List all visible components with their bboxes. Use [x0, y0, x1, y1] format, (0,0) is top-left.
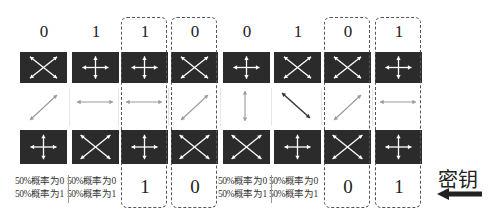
probability-line-0: 50%概率为0	[218, 175, 268, 188]
probability-note: 50%概率为050%概率为1	[67, 175, 117, 201]
column-divider	[69, 88, 70, 126]
sender-basis-rectilinear-icon	[72, 52, 119, 83]
probability-line-1: 50%概率为1	[269, 188, 319, 201]
sender-basis-rectilinear-icon	[223, 52, 270, 83]
column-divider	[168, 88, 169, 126]
sender-basis-diagonal-icon	[20, 52, 67, 83]
receiver-basis-diagonal-icon	[223, 130, 270, 164]
column-divider	[372, 88, 373, 126]
column-divider	[220, 88, 221, 126]
probability-line-1: 50%概率为1	[67, 188, 117, 201]
probability-note: 50%概率为050%概率为1	[218, 175, 268, 201]
sender-basis-diagonal-icon	[274, 52, 321, 83]
kept-column-outline	[171, 17, 217, 208]
probability-divider	[68, 175, 69, 203]
photon-diag-45-icon	[20, 88, 68, 126]
column-divider	[271, 88, 272, 126]
sent-bit: 0	[20, 22, 68, 42]
sent-bit: 0	[223, 22, 271, 42]
receiver-basis-rectilinear-icon	[274, 130, 321, 164]
sent-bit: 1	[72, 22, 120, 42]
probability-divider	[271, 175, 272, 203]
photon-diag-135-icon	[274, 88, 322, 126]
receiver-basis-rectilinear-icon	[20, 130, 67, 164]
kept-column-outline	[324, 17, 370, 208]
kept-column-outline	[121, 17, 167, 208]
left-arrow-icon	[437, 188, 482, 200]
probability-note: 50%概率为050%概率为1	[15, 175, 65, 201]
sent-bit: 1	[274, 22, 322, 42]
column-divider	[321, 88, 322, 126]
column-divider	[118, 88, 119, 126]
kept-column-outline	[375, 17, 421, 208]
probability-line-1: 50%概率为1	[218, 188, 268, 201]
probability-note: 50%概率为050%概率为1	[269, 175, 319, 201]
photon-vertical-icon	[223, 88, 271, 126]
probability-line-0: 50%概率为0	[15, 175, 65, 188]
probability-line-0: 50%概率为0	[269, 175, 319, 188]
photon-horizontal-icon	[72, 88, 120, 126]
probability-line-0: 50%概率为0	[67, 175, 117, 188]
probability-line-1: 50%概率为1	[15, 188, 65, 201]
receiver-basis-diagonal-icon	[72, 130, 119, 164]
